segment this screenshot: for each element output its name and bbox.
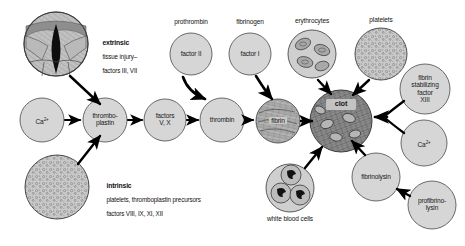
arrow-profibrinolysin-to-fibrinolysin <box>397 189 410 196</box>
coagulation-cascade-diagram: extrinsic tissue injury– factors III, VI… <box>0 0 465 246</box>
node-erythrocytes <box>288 30 336 78</box>
arrow-factor-i-to-fibrin <box>256 76 272 99</box>
node-factors-v-x <box>144 99 186 141</box>
arrow-erythrocytes-to-clot <box>318 80 331 94</box>
node-fibrin-stabilizing-factor <box>400 64 450 114</box>
extrinsic-line1: tissue injury– <box>102 53 137 60</box>
node-white-blood-cells <box>266 164 314 212</box>
node-fibrinolysin <box>352 153 400 201</box>
caption-prothrombin: prothrombin <box>156 18 226 25</box>
arrow-factor-xiii-branch <box>385 101 404 116</box>
node-clot <box>310 90 372 152</box>
arrow-intrinsic-to-thromboplastin <box>78 136 100 164</box>
node-tissue-injury <box>24 12 88 76</box>
caption-erythrocytes: erythrocytes <box>278 17 346 24</box>
intrinsic-heading: intrinsic <box>106 182 131 189</box>
node-thrombin <box>200 98 244 142</box>
node-calcium-right <box>401 120 447 166</box>
arrow-platelets-to-clot <box>353 80 369 95</box>
intrinsic-line1: platelets, thromboplastin precursors <box>106 196 200 203</box>
intrinsic-pathway-note: intrinsic platelets, thromboplastin prec… <box>100 175 201 225</box>
caption-platelets: platelets <box>352 16 410 23</box>
arrow-factor-ii-to-thrombin <box>183 77 205 99</box>
node-platelets <box>355 28 407 80</box>
node-thromboplastin <box>83 98 127 142</box>
caption-white-blood-cells: white blood cells <box>252 215 328 222</box>
node-factor-i <box>229 33 271 75</box>
node-platelet-mass <box>25 155 89 219</box>
intrinsic-line2: factors VIII, IX, XI, XII <box>106 210 162 217</box>
arrow-calcium-right-branch <box>385 118 404 133</box>
caption-fibrinogen: fibrinogen <box>218 18 282 25</box>
node-profibrinolysin <box>408 181 456 229</box>
diagram-canvas <box>0 0 465 246</box>
extrinsic-pathway-note: extrinsic tissue injury– factors III, VI… <box>96 32 137 82</box>
node-fibrin <box>256 99 300 143</box>
arrow-wbc-to-clot <box>305 147 322 168</box>
extrinsic-line2: factors III, VII <box>102 67 137 74</box>
extrinsic-heading: extrinsic <box>102 39 129 46</box>
node-factor-ii <box>170 33 212 75</box>
node-calcium-left <box>20 98 64 142</box>
